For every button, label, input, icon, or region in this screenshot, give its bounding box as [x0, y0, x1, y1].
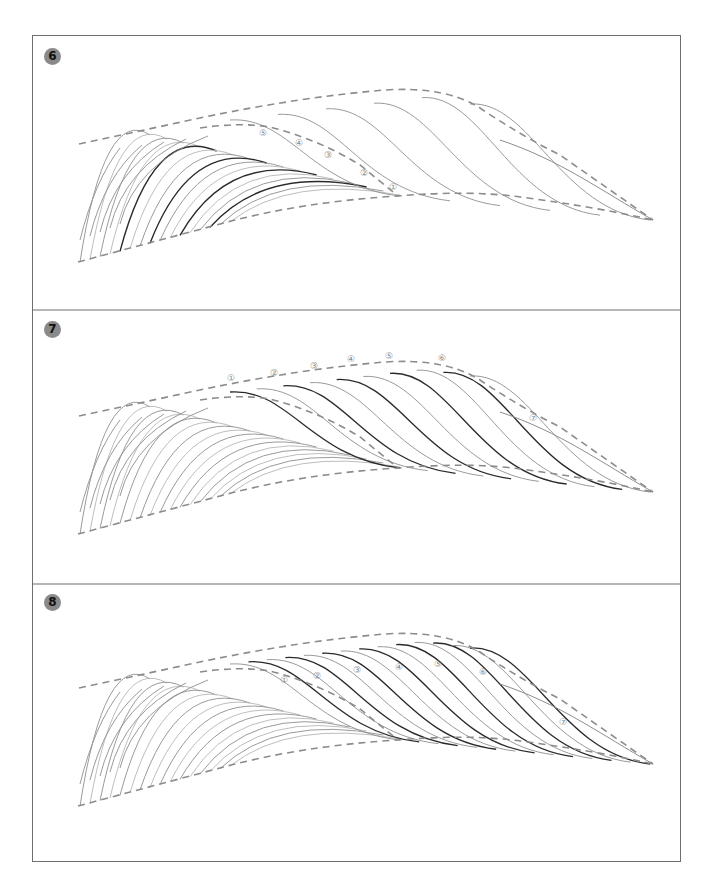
- step-badge-6: 6: [44, 48, 61, 65]
- step-marker-label: ⑦: [559, 717, 567, 727]
- guide-outline-upper: [79, 633, 653, 764]
- guide-outline-upper: [79, 89, 653, 220]
- guide-outline-lower: [78, 737, 653, 806]
- step-marker-label: ①: [280, 675, 288, 685]
- guide-outline-lower: [78, 193, 653, 262]
- wave-strand: [230, 120, 400, 196]
- fan-strand: [160, 434, 283, 513]
- fan-strand: [160, 706, 283, 785]
- tip-strand: [500, 140, 653, 220]
- fan-strand: [150, 702, 267, 787]
- step-marker-label: ⑥: [479, 667, 487, 677]
- fan-strand: [180, 170, 317, 235]
- wave-strand: [257, 389, 428, 471]
- step-marker-label: ②: [313, 671, 321, 681]
- fan-strand: [130, 694, 233, 793]
- wave-strand: [422, 97, 600, 215]
- fan-strand: [170, 710, 300, 782]
- strand-diagram: ①②③④⑤①②③④⑤⑥⑦①②③④⑤⑥⑦: [0, 0, 713, 891]
- step-marker-label: ③: [310, 361, 318, 371]
- step-marker-label: ⑤: [385, 351, 393, 361]
- step-badge-8: 8: [44, 594, 61, 611]
- fan-strand: [180, 714, 317, 779]
- wave-strand: [322, 653, 496, 749]
- step-marker-label: ⑦: [529, 413, 537, 423]
- panel-7-drawing: [78, 361, 653, 534]
- wave-strand: [443, 372, 622, 489]
- guide-outline-lower: [78, 465, 653, 534]
- fan-strand: [170, 166, 300, 238]
- fan-strand: [130, 150, 233, 249]
- step-marker-label: ③: [353, 665, 361, 675]
- wave-strand: [378, 647, 554, 755]
- fan-strand: [150, 158, 267, 243]
- step-marker-label: ①: [227, 373, 235, 383]
- fan-strand: [130, 422, 233, 521]
- wave-strand: [341, 651, 516, 751]
- step-badge-7: 7: [44, 321, 61, 338]
- step-marker-label: ④: [395, 662, 403, 672]
- wave-strand: [230, 392, 400, 468]
- step-marker-label: ④: [347, 354, 355, 364]
- step-marker-label: ②: [270, 368, 278, 378]
- guide-outline-fan-top: [200, 125, 398, 196]
- fan-strand: [160, 162, 283, 241]
- wave-strand: [374, 103, 550, 210]
- figure-canvas: ①②③④⑤①②③④⑤⑥⑦①②③④⑤⑥⑦ 6 7 8: [0, 0, 713, 891]
- wave-strand: [285, 657, 457, 745]
- fan-strand: [170, 438, 300, 510]
- wave-strand: [390, 373, 567, 484]
- wave-strand: [310, 383, 483, 476]
- guide-outline-upper: [79, 361, 653, 492]
- step-marker-label: ⑥: [438, 353, 446, 363]
- fan-strand: [150, 430, 267, 515]
- step-marker-label: ③: [324, 150, 332, 160]
- step-marker-label: ⑤: [434, 659, 442, 669]
- step-marker-label: ①: [389, 182, 397, 192]
- fan-strand: [180, 442, 317, 507]
- wave-strand: [396, 645, 573, 757]
- step-marker-label: ⑤: [259, 128, 267, 138]
- step-marker-label: ④: [295, 138, 303, 148]
- wave-strand: [433, 643, 611, 760]
- guide-outline-fan-top: [200, 669, 398, 740]
- tip-strand: [500, 684, 653, 764]
- step-marker-label: ②: [360, 168, 368, 178]
